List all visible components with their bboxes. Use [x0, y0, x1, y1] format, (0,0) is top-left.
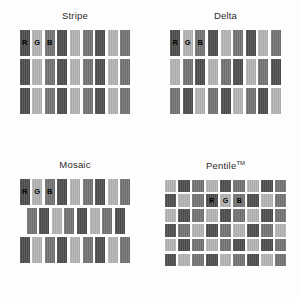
subpixel-bar [221, 30, 231, 56]
pixel-cell [206, 180, 218, 193]
pixel-cell [247, 194, 259, 207]
subpixel-bar [57, 88, 67, 114]
pixel-cell [206, 254, 218, 267]
subpixel-row [170, 88, 281, 117]
subpixel-bar [70, 237, 80, 263]
pixel-cell [275, 239, 287, 252]
pixel-cell [165, 239, 177, 252]
subpixel-bar [70, 88, 80, 114]
subpixel-bar [20, 59, 30, 85]
subpixel-bar [120, 59, 130, 85]
pixel-cell [192, 239, 204, 252]
pixel-cell [165, 254, 177, 267]
subpixel-bar [233, 30, 243, 56]
subpixel-bar [183, 59, 193, 85]
pixel-cell [275, 180, 287, 193]
subpixel-bar [120, 88, 130, 114]
pixel-cell [275, 209, 287, 222]
pixel-cell [247, 239, 259, 252]
channel-label-b: B [45, 179, 55, 205]
subpixel-bar [32, 59, 42, 85]
subpixel-bar [45, 59, 55, 85]
subpixel-bar [108, 30, 118, 56]
subpixel-bar [120, 179, 130, 205]
panel-title-pentile: PentileTM [206, 160, 245, 171]
subpixel-bar [83, 179, 93, 205]
subpixel-bar [70, 179, 80, 205]
subpixel-bar [208, 88, 218, 114]
subpixel-row: RGB [170, 30, 281, 59]
pixel-cell [247, 254, 259, 267]
subpixel-bar [120, 237, 130, 263]
pixel-cell [220, 180, 232, 193]
pixel-cell: B [233, 194, 245, 207]
subpixel-bar [57, 30, 67, 56]
pixel-cell [192, 209, 204, 222]
channel-label-b: B [195, 30, 205, 56]
pixel-cell [220, 239, 232, 252]
subpixel-bar [83, 59, 93, 85]
subpixel-bar [258, 30, 268, 56]
subpixel-bar [57, 237, 67, 263]
pixel-cell [233, 254, 245, 267]
panel-grid: Stripe RGB Delta RGB Mosaic RGB PentileT… [0, 0, 301, 298]
panel-title-pentile-text: Pentile [206, 160, 236, 171]
pixel-row [165, 239, 287, 254]
subpixel-bar [246, 30, 256, 56]
figure-canvas: Stripe RGB Delta RGB Mosaic RGB PentileT… [0, 0, 301, 298]
subpixel-bar [102, 208, 112, 234]
subpixel-bar [208, 59, 218, 85]
panel-stripe: Stripe RGB [0, 0, 150, 149]
panel-delta: Delta RGB [150, 0, 301, 149]
subpixel-bar [108, 88, 118, 114]
pixel-cell [275, 254, 287, 267]
pixel-cell [261, 180, 273, 193]
subpixel-bar [221, 59, 231, 85]
pixel-cell [220, 254, 232, 267]
pixel-cell [165, 209, 177, 222]
subpixel-bar [64, 208, 74, 234]
pixel-cell [220, 209, 232, 222]
subpixel-bar: B [45, 179, 55, 205]
channel-label-r: R [170, 30, 180, 56]
panel-title-delta: Delta [214, 11, 237, 21]
subpixel-bar [27, 208, 37, 234]
pixel-row [165, 254, 287, 269]
panel-title-mosaic: Mosaic [59, 160, 90, 170]
subpixel-bar [115, 208, 125, 234]
pixel-row [165, 180, 287, 195]
subpixel-bar [258, 88, 268, 114]
subpixel-bar [45, 237, 55, 263]
pixel-row [165, 224, 287, 239]
subpixel-bar [20, 88, 30, 114]
subpixel-row [20, 88, 131, 117]
subpixel-bar [95, 30, 105, 56]
pixel-cell [165, 194, 177, 207]
subpixel-matrix-delta: RGB [170, 30, 281, 118]
subpixel-bar [95, 59, 105, 85]
channel-label-r: R [20, 30, 30, 56]
subpixel-bar [108, 179, 118, 205]
pixel-cell [247, 180, 259, 193]
subpixel-bar [90, 208, 100, 234]
pixel-cell [233, 209, 245, 222]
subpixel-matrix-pentile: RGB [165, 180, 287, 269]
subpixel-bar [271, 59, 281, 85]
subpixel-bar: G [32, 179, 42, 205]
subpixel-bar [271, 88, 281, 114]
subpixel-bar [70, 59, 80, 85]
pixel-cell: R [206, 194, 218, 207]
pixel-cell [261, 194, 273, 207]
pixel-row [165, 209, 287, 224]
pixel-cell [165, 180, 177, 193]
subpixel-bar: G [183, 30, 193, 56]
pixel-cell [261, 254, 273, 267]
trademark-symbol: TM [236, 160, 245, 166]
subpixel-bar [233, 88, 243, 114]
subpixel-bar [32, 88, 42, 114]
subpixel-bar: R [170, 30, 180, 56]
panel-mosaic: Mosaic RGB [0, 149, 150, 298]
channel-label-g: G [220, 194, 232, 207]
pixel-cell [178, 180, 190, 193]
subpixel-row [27, 208, 131, 237]
